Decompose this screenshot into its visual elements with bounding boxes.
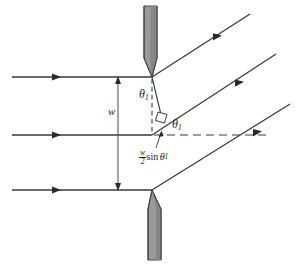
path-difference-numerator: w xyxy=(139,149,146,157)
diffracted-ray-top xyxy=(152,14,250,77)
incident-rays-group xyxy=(12,74,152,194)
path-difference-theta-subscript: 1 xyxy=(165,153,169,161)
diffracted-ray-middle xyxy=(152,54,276,135)
incident-ray-top-arrowhead xyxy=(52,74,61,81)
upper-barrier-shading xyxy=(150,6,157,77)
upper-barrier-plate xyxy=(144,6,157,77)
theta-vertical-subscript: 1 xyxy=(145,93,149,102)
slit-width-dimension-arrow xyxy=(115,76,121,191)
incident-ray-middle-arrowhead xyxy=(52,132,61,139)
diffracted-ray-middle-arrowhead xyxy=(235,80,244,87)
sin-function-label: sin xyxy=(147,152,159,162)
diffraction-figure: w θ1 θ1 w 2 sinθ1 xyxy=(0,0,302,266)
slit-width-label: w xyxy=(108,106,115,117)
lower-barrier-plate xyxy=(148,190,161,260)
right-angle-square-marker xyxy=(156,112,168,123)
path-difference-denominator: 2 xyxy=(140,158,146,166)
path-difference-label: w 2 sinθ1 xyxy=(139,149,168,165)
path-difference-fraction: w 2 xyxy=(139,149,146,165)
path-difference-leader-line xyxy=(156,131,164,149)
theta-horizontal-label: θ1 xyxy=(172,118,182,131)
incident-ray-bottom-arrowhead xyxy=(52,187,61,194)
theta-vertical-label: θ1 xyxy=(139,88,149,101)
figure-canvas xyxy=(0,0,302,266)
leader-line-arrowhead xyxy=(159,131,164,138)
diffracted-rays-group xyxy=(152,14,290,190)
theta-horizontal-subscript: 1 xyxy=(178,123,182,132)
